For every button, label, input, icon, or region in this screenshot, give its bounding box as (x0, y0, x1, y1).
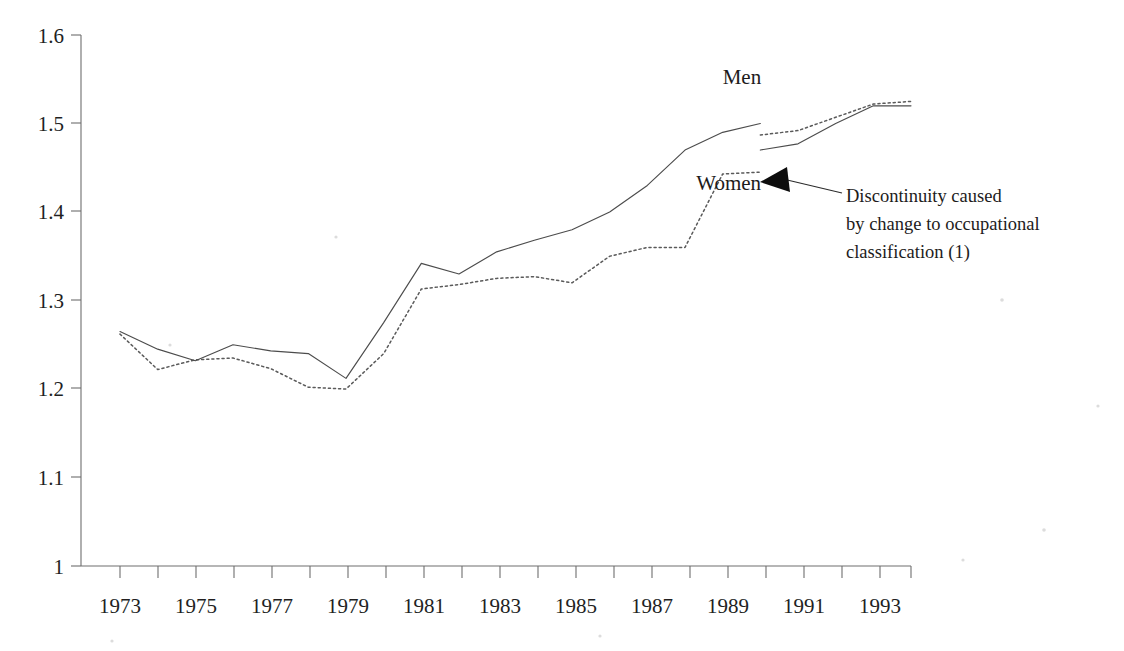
data-series (120, 101, 911, 389)
x-axis-label-1993: 1993 (859, 594, 901, 618)
y-axis-label-1-6: 1.6 (38, 24, 64, 48)
annotation-line-3: classification (1) (846, 242, 970, 263)
y-axis-label-1-3: 1.3 (38, 289, 64, 313)
discontinuity-callout (760, 167, 842, 193)
x-axis-label-1991: 1991 (783, 594, 825, 618)
y-axis-labels: 1.6 1.5 1.4 1.3 1.2 1.1 1 (38, 24, 65, 579)
series-line-women (120, 172, 760, 389)
x-axis-label-1983: 1983 (479, 594, 521, 618)
annotation-leader-line (783, 179, 842, 193)
scan-specks (110, 235, 1099, 642)
series-labels: Men Women (696, 65, 761, 195)
x-axis-label-1987: 1987 (631, 594, 673, 618)
series-line-women-post-discontinuity (760, 101, 911, 135)
x-axis-label-1977: 1977 (251, 594, 293, 618)
x-axis-labels: 1973 1975 1977 1979 1981 1983 1985 1987 … (99, 594, 901, 618)
y-axis-label-1-0: 1 (54, 555, 65, 579)
line-chart: 1.6 1.5 1.4 1.3 1.2 1.1 1 (0, 0, 1124, 651)
x-axis-label-1979: 1979 (327, 594, 369, 618)
series-line-men (120, 124, 760, 379)
x-axis-label-1973: 1973 (99, 594, 141, 618)
series-label-men: Men (723, 65, 762, 89)
y-axis-label-1-1: 1.1 (38, 466, 64, 490)
x-axis-ticks (120, 566, 911, 578)
series-label-women: Women (696, 171, 761, 195)
y-axis-ticks (71, 35, 81, 566)
y-axis-label-1-5: 1.5 (38, 112, 64, 136)
y-axis-label-1-4: 1.4 (38, 200, 65, 224)
annotation-line-1: Discontinuity caused (846, 186, 1002, 206)
series-line-men-post-discontinuity (760, 106, 911, 150)
chart-container: 1.6 1.5 1.4 1.3 1.2 1.1 1 (0, 0, 1124, 651)
x-axis-label-1985: 1985 (555, 594, 597, 618)
x-axis-label-1981: 1981 (403, 594, 445, 618)
arrow-left-icon (760, 167, 790, 192)
x-axis-label-1975: 1975 (175, 594, 217, 618)
y-axis-label-1-2: 1.2 (38, 377, 64, 401)
x-axis-label-1989: 1989 (707, 594, 749, 618)
axes (81, 35, 911, 566)
annotation-line-2: by change to occupational (846, 214, 1040, 234)
annotation-text-block: Discontinuity caused by change to occupa… (846, 186, 1040, 263)
